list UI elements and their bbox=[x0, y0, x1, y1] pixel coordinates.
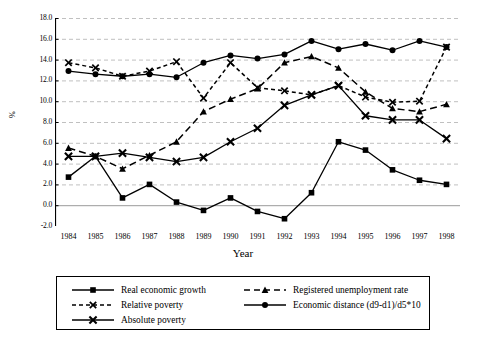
x-axis-tick-labels: 1984198519861987198819891990199119921993… bbox=[55, 232, 460, 244]
plot-area bbox=[55, 18, 460, 226]
data-point-circle bbox=[390, 47, 396, 53]
data-point-x bbox=[200, 95, 206, 101]
data-point-square bbox=[309, 190, 315, 196]
data-point-circle bbox=[417, 38, 423, 44]
data-point-x-bold bbox=[281, 102, 288, 109]
data-point-circle bbox=[255, 56, 261, 62]
data-point-circle bbox=[363, 41, 369, 47]
legend-row: Relative povertyEconomic distance (d9-d1… bbox=[57, 297, 429, 312]
data-point-square bbox=[90, 287, 96, 293]
data-point-x bbox=[173, 58, 179, 64]
plot-svg bbox=[55, 18, 460, 226]
legend-box: Real economic growthRegistered unemploym… bbox=[56, 276, 430, 330]
data-point-circle bbox=[93, 71, 99, 77]
data-point-square bbox=[174, 199, 180, 205]
data-point-circle bbox=[444, 44, 450, 50]
legend-marker-x-icon bbox=[71, 298, 115, 312]
y-tick-label: 18.0 bbox=[40, 14, 53, 22]
legend-item[interactable]: Registered unemployment rate bbox=[243, 282, 408, 297]
legend-marker-square-icon bbox=[71, 283, 115, 297]
y-tick-label: 16.0 bbox=[40, 35, 53, 43]
y-axis-label: % bbox=[8, 111, 17, 118]
data-point-circle bbox=[262, 302, 268, 308]
legend-row: Absolute poverty bbox=[57, 312, 429, 327]
y-tick-label: 14.0 bbox=[40, 56, 53, 64]
data-point-square bbox=[336, 139, 342, 145]
legend-label: Real economic growth bbox=[121, 283, 206, 297]
legend-item[interactable]: Relative poverty bbox=[71, 297, 183, 312]
legend-item[interactable]: Real economic growth bbox=[71, 282, 206, 297]
data-point-square bbox=[255, 209, 261, 215]
legend-item[interactable]: Economic distance (d9-d1)/d5*10 bbox=[243, 297, 421, 312]
data-point-triangle bbox=[65, 145, 72, 151]
data-point-square bbox=[390, 167, 396, 173]
data-point-x bbox=[416, 98, 422, 104]
data-point-triangle bbox=[389, 105, 396, 111]
data-point-triangle bbox=[119, 165, 126, 171]
series-absolute-poverty bbox=[65, 82, 450, 165]
x-tick-label: 1998 bbox=[430, 232, 464, 241]
data-point-square bbox=[363, 147, 369, 153]
chart-page: % 18.016.014.012.010.08.06.04.02.00.0-2.… bbox=[0, 0, 486, 339]
legend-entries: Real economic growthRegistered unemploym… bbox=[57, 277, 429, 329]
legend-marker-x-bold-icon bbox=[71, 313, 115, 327]
data-point-circle bbox=[66, 68, 72, 74]
legend-label: Relative poverty bbox=[121, 298, 183, 312]
legend-marker-circle-icon bbox=[243, 298, 287, 312]
data-point-circle bbox=[228, 52, 234, 58]
data-point-square bbox=[444, 182, 450, 188]
y-tick-label: 12.0 bbox=[40, 76, 53, 84]
data-point-square bbox=[201, 208, 207, 214]
data-point-x-bold bbox=[254, 125, 261, 132]
data-point-square bbox=[147, 182, 153, 188]
data-point-x-bold bbox=[227, 138, 234, 145]
y-tick-label: 0.0 bbox=[43, 201, 52, 209]
data-point-square bbox=[228, 195, 234, 201]
data-point-circle bbox=[201, 60, 207, 66]
data-point-circle bbox=[282, 51, 288, 57]
legend-row: Real economic growthRegistered unemploym… bbox=[57, 282, 429, 297]
data-point-square bbox=[417, 177, 423, 183]
y-tick-label: 6.0 bbox=[43, 139, 52, 147]
legend-label: Economic distance (d9-d1)/d5*10 bbox=[293, 298, 421, 312]
y-tick-label: 2.0 bbox=[43, 180, 52, 188]
data-point-square bbox=[66, 174, 72, 180]
y-tick-label: 10.0 bbox=[40, 97, 53, 105]
data-point-square bbox=[282, 216, 288, 222]
legend-item[interactable]: Absolute poverty bbox=[71, 312, 186, 327]
data-point-circle bbox=[120, 73, 126, 79]
data-point-square bbox=[120, 195, 126, 201]
data-point-triangle bbox=[308, 53, 315, 59]
data-point-x-bold bbox=[443, 135, 450, 142]
data-point-circle bbox=[174, 74, 180, 80]
y-tick-label: -2.0 bbox=[41, 222, 52, 230]
chart-container: % 18.016.014.012.010.08.06.04.02.00.0-2.… bbox=[0, 0, 486, 268]
y-axis-tick-labels: 18.016.014.012.010.08.06.04.02.00.0-2.0 bbox=[18, 18, 52, 226]
data-point-circle bbox=[336, 46, 342, 52]
series-economic-distance-d9-d1-d5-10 bbox=[66, 38, 450, 80]
y-tick-label: 8.0 bbox=[43, 118, 52, 126]
y-tick-label: 4.0 bbox=[43, 160, 52, 168]
data-point-triangle bbox=[200, 108, 207, 114]
legend-label: Absolute poverty bbox=[121, 313, 186, 327]
data-point-circle bbox=[309, 38, 315, 44]
data-point-x-bold bbox=[335, 82, 342, 89]
data-point-circle bbox=[147, 71, 153, 77]
legend-label: Registered unemployment rate bbox=[293, 283, 408, 297]
x-axis-label: Year bbox=[0, 247, 486, 259]
legend-marker-triangle-icon bbox=[243, 283, 287, 297]
